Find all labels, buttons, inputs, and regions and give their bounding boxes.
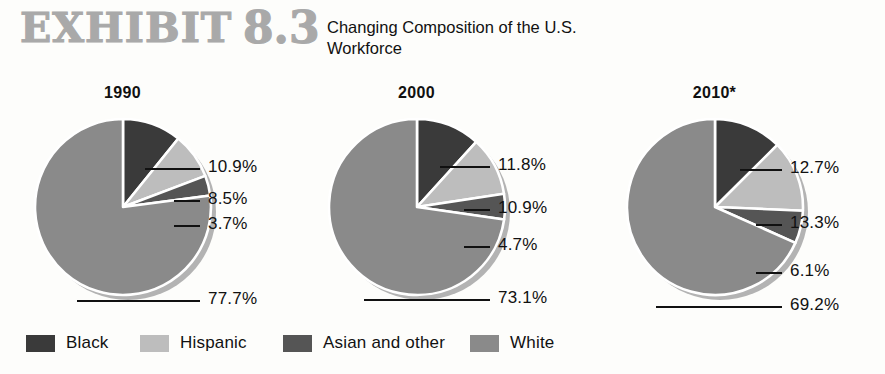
leader-line <box>174 225 200 227</box>
legend-label-black: Black <box>66 333 109 353</box>
pie-value-label: 6.1% <box>790 261 830 281</box>
legend-swatch-black <box>26 335 55 352</box>
pie-title-2000: 2000 <box>324 84 509 102</box>
leader-line <box>656 306 782 308</box>
leader-line <box>145 168 200 170</box>
pie-value-label: 4.7% <box>498 235 538 255</box>
pie-title-2010: 2010* <box>622 84 807 102</box>
pie-value-label: 3.7% <box>208 214 248 234</box>
pie-chart-1990 <box>30 114 216 300</box>
pie-value-label: 10.9% <box>498 198 547 218</box>
pie-value-label: 8.5% <box>208 189 248 209</box>
leader-line <box>174 200 200 202</box>
legend-item-hispanic: Hispanic <box>140 330 247 356</box>
pie-panel-1990: 1990 10.9%8.5%3.7%77.7% <box>8 84 308 304</box>
legend-swatch-hispanic <box>140 335 169 352</box>
pie-graphic <box>30 114 216 300</box>
legend-item-white: White <box>470 330 554 356</box>
leader-line <box>364 299 490 301</box>
leader-line <box>740 169 782 171</box>
legend-swatch-white <box>470 335 499 352</box>
legend-swatch-asian <box>283 335 312 352</box>
leader-line <box>440 166 490 168</box>
leader-line <box>756 224 782 226</box>
exhibit-subtitle: Changing Composition of the U.S. Workfor… <box>327 17 577 59</box>
pie-title-1990: 1990 <box>30 84 215 102</box>
pie-graphic <box>324 114 510 300</box>
pie-value-label: 13.3% <box>790 213 839 233</box>
pie-value-label: 12.7% <box>790 158 839 178</box>
legend-item-asian: Asian and other <box>283 330 445 356</box>
legend-label-asian: Asian and other <box>323 333 445 353</box>
pie-panel-2010: 2010* 12.7%13.3%6.1%69.2% <box>586 84 885 304</box>
pie-chart-2000 <box>324 114 510 300</box>
chart-legend: Black Hispanic Asian and other White <box>0 330 885 364</box>
pie-value-label: 73.1% <box>498 288 547 308</box>
legend-label-white: White <box>510 333 554 353</box>
pie-value-label: 10.9% <box>208 157 257 177</box>
leader-line <box>77 300 200 302</box>
legend-label-hispanic: Hispanic <box>180 333 247 353</box>
leader-line <box>464 209 490 211</box>
exhibit-header: EXHIBIT 8.3 Changing Composition of the … <box>0 0 885 78</box>
exhibit-number: 8.3 <box>243 6 320 50</box>
pie-value-label: 11.8% <box>498 155 546 175</box>
pie-value-label: 77.7% <box>208 289 257 309</box>
pie-panel-2000: 2000 11.8%10.9%4.7%73.1% <box>296 84 596 304</box>
legend-item-black: Black <box>26 330 109 356</box>
leader-line <box>756 272 782 274</box>
leader-line <box>464 246 490 248</box>
pie-value-label: 69.2% <box>790 295 839 315</box>
exhibit-word: EXHIBIT <box>20 8 232 49</box>
